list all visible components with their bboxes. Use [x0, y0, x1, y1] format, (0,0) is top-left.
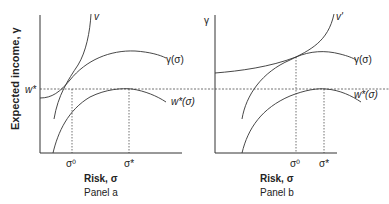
- panel-a: w* v γ(σ) w*(σ) σ⁰ σ* Risk, σ Panel a: [25, 11, 195, 198]
- panel-b: γ v' γ(σ) w*(σ) σ⁰ σ* Risk, σ Panel b: [204, 11, 378, 198]
- panel-a-x-axis-label: Risk, σ: [84, 173, 118, 184]
- panel-b-caption: Panel b: [260, 187, 294, 198]
- panel-a-w-star-tick: w*: [25, 84, 37, 95]
- panel-b-sigmastar-tick: σ*: [319, 158, 329, 169]
- risk-income-diagram: Expected income, γ w* v γ(σ) w*(σ) σ⁰ σ*…: [0, 0, 389, 204]
- panel-a-wstar-label: w*(σ): [171, 96, 195, 107]
- panel-b-sigma0-tick: σ⁰: [290, 158, 300, 169]
- panel-b-v-prime-curve: [242, 14, 334, 119]
- panel-a-gamma-label: γ(σ): [166, 54, 184, 65]
- panel-a-gamma-curve: [40, 51, 166, 98]
- panel-a-sigma0-tick: σ⁰: [66, 158, 76, 169]
- panel-a-sigmastar-tick: σ*: [124, 158, 134, 169]
- panel-a-v-label: v: [94, 11, 100, 22]
- panel-b-x-axis-label: Risk, σ: [260, 173, 294, 184]
- panel-b-wstar-curve: [242, 89, 361, 153]
- panel-b-v-prime-label: v': [336, 11, 344, 22]
- panel-a-caption: Panel a: [84, 187, 118, 198]
- panel-a-v-curve: [54, 14, 91, 119]
- y-axis-label: Expected income, γ: [9, 26, 21, 130]
- panel-b-gamma-label: γ(σ): [354, 54, 372, 65]
- panel-b-y-axis-label: γ: [204, 15, 209, 26]
- panel-b-wstar-label: w*(σ): [354, 89, 378, 100]
- panel-a-wstar-curve: [53, 89, 166, 153]
